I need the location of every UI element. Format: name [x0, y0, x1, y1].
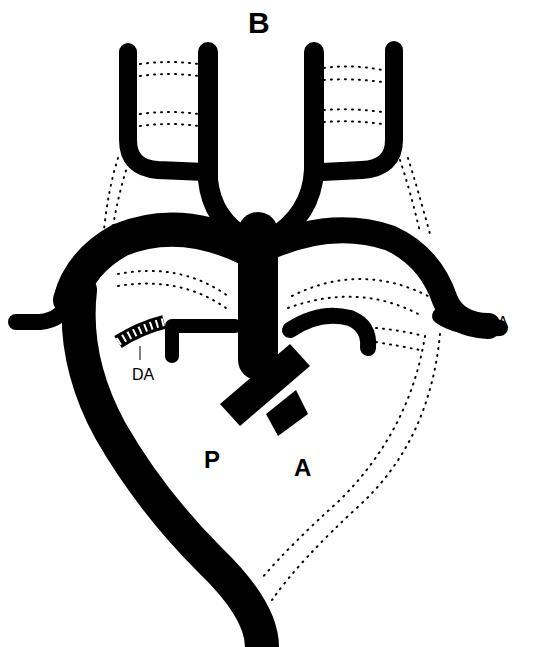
left-pulmonary-branch: [172, 326, 235, 356]
right-fork-outer-vessel: [322, 50, 394, 172]
da-label: DA: [132, 366, 154, 384]
left-fork-inner-vessel: [208, 52, 248, 240]
ductus-arteriosus: [118, 322, 164, 360]
lsa-label: LSA: [478, 314, 508, 332]
a-label: A: [294, 454, 311, 482]
p-label: P: [204, 446, 220, 474]
aortic-arch-left: [70, 230, 250, 300]
right-fork-inner-vessel: [270, 52, 314, 240]
aortic-arch-right: [262, 230, 488, 326]
left-fork-outer-vessel: [128, 52, 205, 172]
aortic-arch-diagram: [0, 0, 534, 647]
right-pulmonary-curl: [290, 316, 368, 348]
panel-label: B: [248, 6, 270, 40]
